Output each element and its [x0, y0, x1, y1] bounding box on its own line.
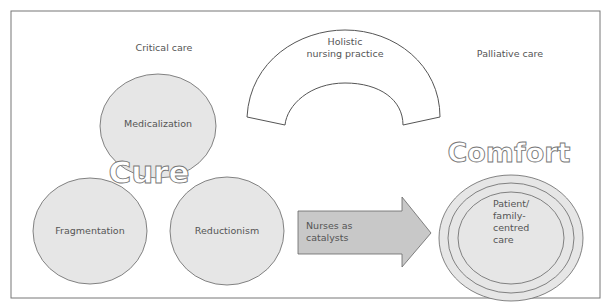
palliative-care-label: Palliative care — [477, 48, 543, 59]
holistic-label-line2: nursing practice — [306, 48, 383, 59]
patient-label-line4: care — [493, 234, 514, 245]
cure-title: Cure — [108, 154, 189, 190]
nurses-label-line1: Nurses as — [306, 220, 353, 231]
holistic-label-line1: Holistic — [328, 36, 363, 47]
patient-label-line2: family- — [493, 210, 526, 221]
medicalization-label: Medicalization — [124, 118, 192, 129]
reductionism-label: Reductionism — [195, 225, 259, 236]
patient-label-line3: centred — [493, 222, 529, 233]
comfort-title: Comfort — [447, 137, 570, 168]
critical-care-label: Critical care — [136, 42, 193, 53]
patient-label-line1: Patient/ — [493, 198, 530, 209]
nurses-label-line2: catalysts — [306, 232, 349, 243]
fragmentation-label: Fragmentation — [55, 225, 124, 236]
diagram-canvas: Critical care Palliative care Holistic n… — [0, 0, 612, 308]
